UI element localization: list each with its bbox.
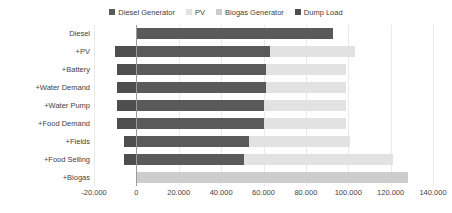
plot-area (94, 25, 433, 186)
legend-entry[interactable]: Biogas Generator (216, 8, 284, 17)
legend-swatch-icon (186, 9, 192, 15)
value-axis-tick-label: -20.000 (81, 188, 106, 198)
bar-segment[interactable] (117, 118, 136, 129)
value-axis-tick-label: 80.000 (294, 188, 317, 198)
chart-legend: Diesel GeneratorPVBiogas GeneratorDump L… (0, 4, 452, 20)
bar-row[interactable] (94, 64, 433, 75)
category-label: +Food Demand (0, 119, 90, 128)
bar-segment[interactable] (124, 154, 137, 165)
legend-entry[interactable]: Dump Load (295, 8, 343, 17)
bar-row[interactable] (94, 118, 433, 129)
legend-swatch-icon (295, 9, 301, 15)
category-label: +Food Selling (0, 155, 90, 164)
bar-segment[interactable] (244, 154, 392, 165)
bar-row[interactable] (94, 172, 433, 183)
bar-row[interactable] (94, 28, 433, 39)
value-axis-labels: -20.000020.00040.00060.00080.000100.0001… (94, 188, 433, 202)
value-axis-tick-label: 40.000 (210, 188, 233, 198)
legend-label: Dump Load (304, 8, 343, 17)
bar-segment[interactable] (136, 118, 263, 129)
legend-swatch-icon (216, 9, 222, 15)
value-axis-tick-label: 20.000 (167, 188, 190, 198)
bar-segment[interactable] (117, 100, 136, 111)
category-axis-labels: Diesel+PV+Battery+Water Demand+Water Pum… (0, 25, 90, 186)
value-axis-tick-label: 100.000 (335, 188, 362, 198)
category-label: +Battery (0, 65, 90, 74)
category-label: +Water Demand (0, 83, 90, 92)
legend-label: PV (195, 8, 205, 17)
bar-segment[interactable] (136, 172, 407, 183)
category-label: +Fields (0, 137, 90, 146)
bar-row[interactable] (94, 154, 433, 165)
bar-segment[interactable] (117, 64, 136, 75)
value-axis-tick-label: 140.000 (419, 188, 446, 198)
bar-segment[interactable] (136, 82, 265, 93)
legend-label: Biogas Generator (225, 8, 284, 17)
bar-row[interactable] (94, 136, 433, 147)
value-axis-tick-label: 0 (134, 188, 138, 198)
bar-segment[interactable] (115, 46, 136, 57)
zero-axis-line (136, 25, 137, 186)
legend-label: Diesel Generator (118, 8, 175, 17)
bar-segment[interactable] (136, 136, 248, 147)
category-label: Diesel (0, 29, 90, 38)
stacked-bar-chart: Diesel GeneratorPVBiogas GeneratorDump L… (0, 0, 452, 213)
bar-segment[interactable] (266, 64, 347, 75)
bar-segment[interactable] (270, 46, 355, 57)
bar-segment[interactable] (136, 28, 333, 39)
bar-segment[interactable] (266, 82, 347, 93)
category-label: +Biogas (0, 173, 90, 182)
gridline (433, 25, 434, 186)
bar-segment[interactable] (136, 100, 263, 111)
bar-segment[interactable] (117, 82, 136, 93)
bar-segment[interactable] (136, 154, 244, 165)
bar-row[interactable] (94, 100, 433, 111)
category-label: +Water Pump (0, 101, 90, 110)
legend-entry[interactable]: Diesel Generator (109, 8, 175, 17)
value-axis-tick-label: 60.000 (252, 188, 275, 198)
bar-row[interactable] (94, 82, 433, 93)
bar-segment[interactable] (249, 136, 351, 147)
bar-segment[interactable] (136, 64, 265, 75)
category-label: +PV (0, 47, 90, 56)
bar-segment[interactable] (124, 136, 137, 147)
legend-swatch-icon (109, 9, 115, 15)
bar-row[interactable] (94, 46, 433, 57)
bar-segment[interactable] (136, 46, 269, 57)
bar-segment[interactable] (264, 118, 347, 129)
bar-segment[interactable] (264, 100, 347, 111)
legend-entry[interactable]: PV (186, 8, 205, 17)
value-axis-tick-label: 120.000 (377, 188, 404, 198)
